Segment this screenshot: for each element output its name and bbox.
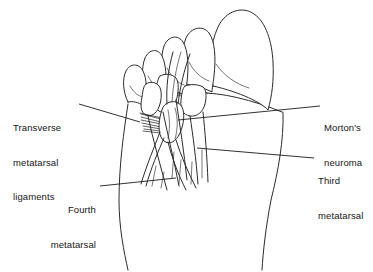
leader-line-third-metatarsal xyxy=(197,148,314,158)
label-third-metatarsal: Third metatarsal xyxy=(318,152,363,244)
big-toe xyxy=(211,10,274,110)
big-toe-group xyxy=(211,10,274,110)
foot-medial-border xyxy=(262,112,283,270)
label-third-line-1: Third xyxy=(318,175,363,187)
lateral-nerve-branch-edge xyxy=(141,132,160,184)
ligament-fiber-2 xyxy=(141,117,161,122)
label-fourth-line-2: metatarsal xyxy=(34,239,96,251)
fascia-striation-4 xyxy=(152,166,156,186)
leader-line-transverse-ligaments xyxy=(79,104,140,122)
foot-lateral-border xyxy=(119,104,128,270)
leader-lines-group xyxy=(79,104,320,186)
morton-neuroma-figure: Transverse metatarsal ligaments Fourth m… xyxy=(0,0,373,272)
fascia-striation-5 xyxy=(191,162,192,184)
label-third-line-2: metatarsal xyxy=(318,210,363,222)
ligament-fiber-6 xyxy=(144,129,160,131)
third-metatarsal-head xyxy=(181,85,206,117)
label-fourth-metatarsal: Fourth metatarsal xyxy=(34,181,96,272)
mortons-neuroma-mass xyxy=(159,102,184,143)
label-transverse-line-1: Transverse xyxy=(13,122,61,134)
label-fourth-line-1: Fourth xyxy=(34,204,96,216)
label-mortons-line-1: Morton's xyxy=(324,122,362,134)
mortons-neuroma-group xyxy=(159,102,184,143)
label-transverse-line-2: metatarsal xyxy=(13,157,61,169)
third-metatarsal-shaft-medial xyxy=(203,112,208,182)
fascia-striation-2 xyxy=(179,160,181,184)
